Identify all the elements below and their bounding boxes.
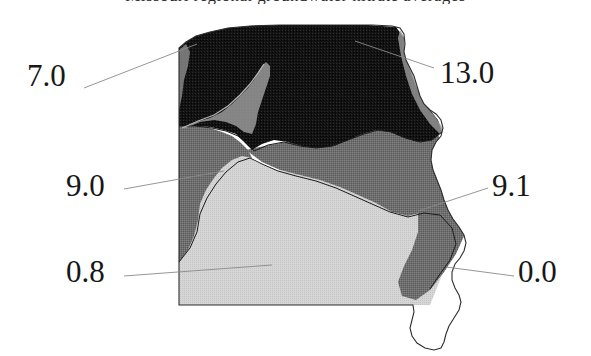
- region-value-east-central: 9.1: [492, 170, 531, 201]
- region-value-west-central: 9.0: [66, 170, 105, 201]
- region-value-south-ozarks: 0.8: [66, 256, 105, 287]
- region-value-northwest: 7.0: [27, 60, 66, 91]
- region-value-northeast: 13.0: [440, 57, 494, 88]
- region-value-bootheel: 0.0: [518, 256, 557, 287]
- map-figure: Missouri regional groundwater nitrate av…: [0, 0, 591, 356]
- leader-line-bootheel: [446, 267, 514, 276]
